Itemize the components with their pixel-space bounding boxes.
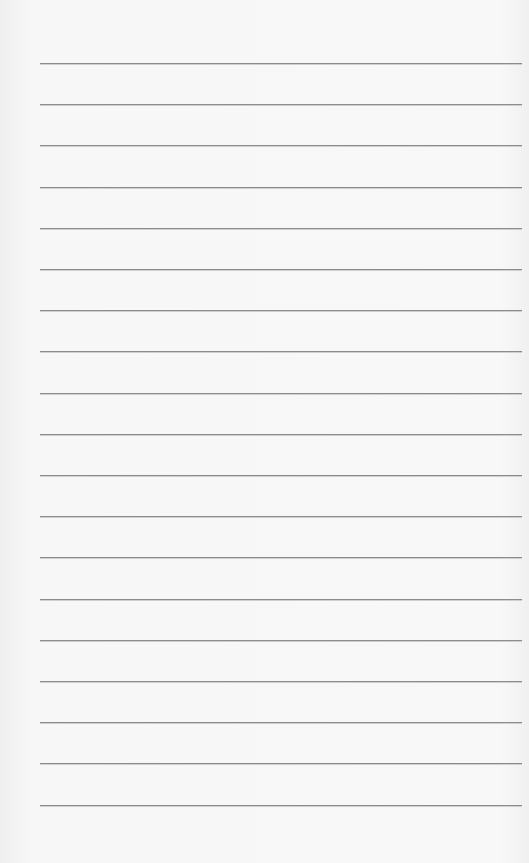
ruled-line xyxy=(40,187,522,188)
ruled-line xyxy=(40,310,522,311)
ruled-line xyxy=(40,640,522,641)
ruled-line xyxy=(40,557,522,558)
ruled-line xyxy=(40,681,522,682)
ruled-line xyxy=(40,269,522,270)
ruled-line xyxy=(40,228,522,229)
ruled-line xyxy=(40,104,522,105)
ruled-line xyxy=(40,145,522,146)
lined-paper xyxy=(0,0,529,863)
ruled-line xyxy=(40,63,522,64)
ruled-line xyxy=(40,475,522,476)
ruled-line xyxy=(40,763,522,764)
ruled-line xyxy=(40,393,522,394)
ruled-line xyxy=(40,599,522,600)
ruled-line xyxy=(40,805,522,806)
ruled-line xyxy=(40,434,522,435)
ruled-line xyxy=(40,516,522,517)
ruled-line xyxy=(40,351,522,352)
ruled-line xyxy=(40,722,522,723)
